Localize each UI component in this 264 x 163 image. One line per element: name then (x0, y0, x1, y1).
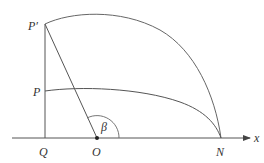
label-x-axis: x (253, 131, 260, 145)
segment-op-prime (45, 24, 97, 138)
label-p: P (32, 85, 41, 99)
outer-arc-p-prime-to-n (45, 14, 221, 138)
label-o: O (92, 145, 101, 159)
inner-curve-p-to-n (45, 89, 221, 138)
diagram-canvas: P′ P Q O N x β (0, 0, 264, 163)
diagram-svg: P′ P Q O N x β (0, 0, 264, 163)
label-q: Q (39, 145, 48, 159)
label-p-prime: P′ (27, 19, 38, 33)
label-n: N (215, 145, 225, 159)
origin-point (95, 136, 99, 140)
label-beta: β (100, 120, 107, 134)
